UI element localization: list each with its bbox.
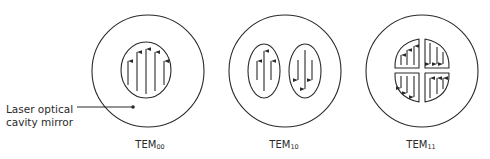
mirror-callout-label: Laser optical cavity mirror — [6, 103, 73, 129]
callout-line-1: Laser optical — [6, 103, 73, 116]
field-arrows-up — [257, 51, 271, 91]
field-arrows-up — [128, 49, 164, 94]
label-tem10: TEM10 — [254, 139, 314, 151]
label-prefix: TEM — [269, 139, 290, 150]
callout-line-2: cavity mirror — [6, 116, 73, 129]
label-subscript: 11 — [427, 143, 435, 151]
label-tem11: TEM11 — [391, 139, 451, 151]
label-tem00: TEM00 — [120, 139, 180, 151]
mirror-circle — [92, 15, 204, 127]
mode-tem00 — [77, 15, 204, 127]
label-subscript: 10 — [290, 143, 298, 151]
mode-tem10 — [229, 15, 341, 127]
label-subscript: 00 — [156, 143, 164, 151]
label-prefix: TEM — [406, 139, 427, 150]
field-arrows-bottom-left-down — [401, 76, 414, 97]
tem-modes-diagram: Laser optical cavity mirror TEM00 TEM10 … — [0, 0, 490, 159]
field-arrows-top-left-up — [401, 46, 414, 65]
field-arrows-down — [298, 50, 312, 89]
diagram-canvas — [0, 0, 490, 159]
mirror-circle — [229, 15, 341, 127]
mode-tem11 — [366, 15, 478, 127]
mirror-circle — [366, 15, 478, 127]
label-prefix: TEM — [135, 139, 156, 150]
